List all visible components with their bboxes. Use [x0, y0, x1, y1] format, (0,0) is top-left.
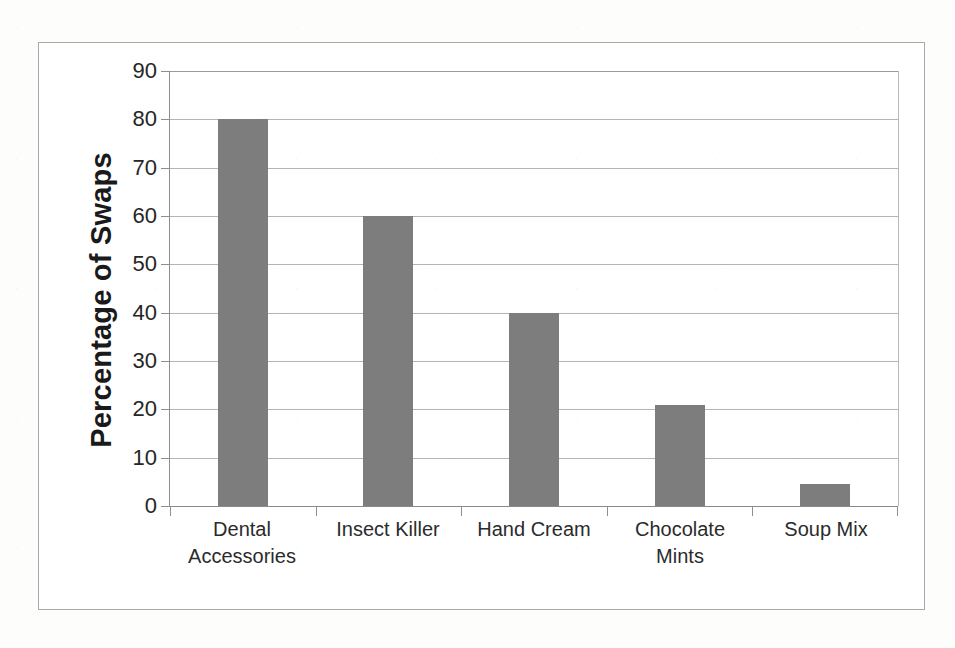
y-tick-label: 90	[133, 58, 157, 84]
x-tick-mark	[607, 506, 608, 516]
gridline	[170, 506, 898, 507]
y-tick-mark	[161, 506, 170, 507]
y-tick-mark	[161, 361, 170, 362]
y-tick-mark	[161, 119, 170, 120]
y-tick-label: 50	[133, 251, 157, 277]
plot-area: 0102030405060708090	[169, 71, 899, 506]
bar	[509, 313, 559, 506]
y-tick-mark	[161, 216, 170, 217]
bar	[363, 216, 413, 506]
y-tick-label: 60	[133, 203, 157, 229]
y-tick-mark	[161, 71, 170, 72]
bar-slot	[170, 71, 316, 506]
bar-series	[170, 71, 898, 506]
y-tick-mark	[161, 458, 170, 459]
x-axis-labels: DentalAccessoriesInsect KillerHand Cream…	[169, 516, 899, 570]
bar	[655, 405, 705, 507]
x-tick-mark	[752, 506, 753, 516]
x-tick-mark	[316, 506, 317, 516]
y-tick-label: 80	[133, 106, 157, 132]
y-tick-label: 30	[133, 348, 157, 374]
y-tick-label: 20	[133, 396, 157, 422]
x-tick-mark	[461, 506, 462, 516]
bar	[218, 119, 268, 506]
y-tick-mark	[161, 409, 170, 410]
x-axis-label: DentalAccessories	[169, 516, 315, 570]
bar	[800, 484, 850, 506]
y-tick-label: 0	[145, 493, 157, 519]
y-axis-title: Percentage of Swaps	[81, 65, 121, 535]
x-axis-label: Hand Cream	[461, 516, 607, 570]
x-axis-label: ChocolateMints	[607, 516, 753, 570]
scanned-page: Percentage of Swaps 0102030405060708090 …	[0, 0, 955, 648]
x-axis-label: Insect Killer	[315, 516, 461, 570]
y-tick-mark	[161, 168, 170, 169]
y-tick-mark	[161, 313, 170, 314]
y-tick-label: 40	[133, 300, 157, 326]
bar-slot	[752, 71, 898, 506]
x-tick-mark	[170, 506, 171, 516]
x-tick-mark	[897, 506, 898, 516]
y-tick-label: 70	[133, 155, 157, 181]
y-tick-mark	[161, 264, 170, 265]
x-axis-label: Soup Mix	[753, 516, 899, 570]
chart-frame: Percentage of Swaps 0102030405060708090 …	[38, 42, 925, 610]
bar-slot	[461, 71, 607, 506]
bar-slot	[316, 71, 462, 506]
bar-slot	[607, 71, 753, 506]
y-tick-label: 10	[133, 445, 157, 471]
